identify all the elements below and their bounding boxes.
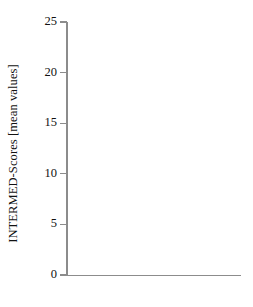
y-tick-label: 20: [17, 66, 57, 79]
y-tick-mark: [60, 224, 67, 225]
plot-area: 2520151050: [0, 0, 253, 307]
y-tick-label: 5: [17, 217, 57, 230]
y-tick-mark: [60, 123, 67, 124]
y-axis-line: [66, 22, 68, 276]
y-tick-label: 10: [17, 167, 57, 180]
x-axis-line: [66, 275, 241, 277]
y-tick-mark: [60, 274, 67, 275]
y-tick-mark: [60, 173, 67, 174]
chart-container: INTERMED-Scores [mean values] 2520151050: [0, 0, 253, 307]
y-tick-label: 25: [17, 15, 57, 28]
y-tick-mark: [60, 72, 67, 73]
y-tick-label: 0: [17, 268, 57, 281]
y-tick-label: 15: [17, 116, 57, 129]
y-tick-mark: [60, 21, 67, 22]
